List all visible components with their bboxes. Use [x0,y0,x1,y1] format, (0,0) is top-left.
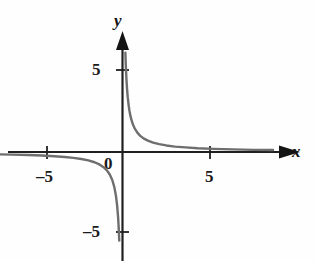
coordinate-plane [0,0,315,261]
curve-branch-quadrant-3 [0,154,119,240]
y-tick-label-5: 5 [92,61,101,78]
curve-branch-quadrant-1 [125,53,273,150]
y-tick-label-negative-5: –5 [83,223,100,240]
y-axis-label: y [114,12,122,29]
x-tick-label-negative-5: –5 [36,168,53,185]
graph-figure: y x 5 –5 –5 5 0 [0,0,315,261]
y-axis-arrowhead [116,31,129,50]
x-axis-label: x [292,143,301,160]
x-tick-label-5: 5 [205,168,214,185]
origin-label: 0 [104,155,113,172]
